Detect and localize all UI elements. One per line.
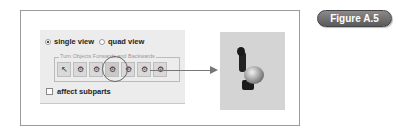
turn-tool-1-button[interactable]: ⚙ — [73, 62, 87, 77]
single-view-label: single view — [54, 37, 94, 46]
callout-arrow-line — [150, 70, 212, 71]
penguin-head — [237, 47, 245, 56]
turn-tool-1-icon: ⚙ — [77, 65, 84, 74]
affect-subparts-row: affect subparts — [46, 87, 111, 96]
affect-subparts-checkbox[interactable] — [46, 88, 53, 95]
single-view-radio[interactable] — [45, 39, 51, 45]
turn-tool-2-button[interactable]: ⚙ — [89, 62, 103, 77]
turn-tool-2-icon: ⚙ — [93, 65, 100, 74]
pointer-tool-button[interactable]: ↖ — [57, 62, 71, 77]
figure-badge: Figure A.5 — [317, 10, 392, 27]
arrow-right-icon — [210, 66, 218, 74]
turn-tool-5-button[interactable]: ⚙ — [137, 62, 151, 77]
affect-subparts-label: affect subparts — [57, 87, 111, 96]
highlight-circle — [102, 56, 128, 82]
preview-image — [220, 32, 285, 110]
quad-view-radio[interactable] — [99, 39, 105, 45]
view-mode-radio-group: single view quad view — [45, 37, 149, 46]
pointer-icon: ↖ — [61, 65, 68, 74]
turn-tool-5-icon: ⚙ — [141, 65, 148, 74]
quad-view-label: quad view — [108, 37, 144, 46]
penguin-body — [244, 66, 264, 84]
